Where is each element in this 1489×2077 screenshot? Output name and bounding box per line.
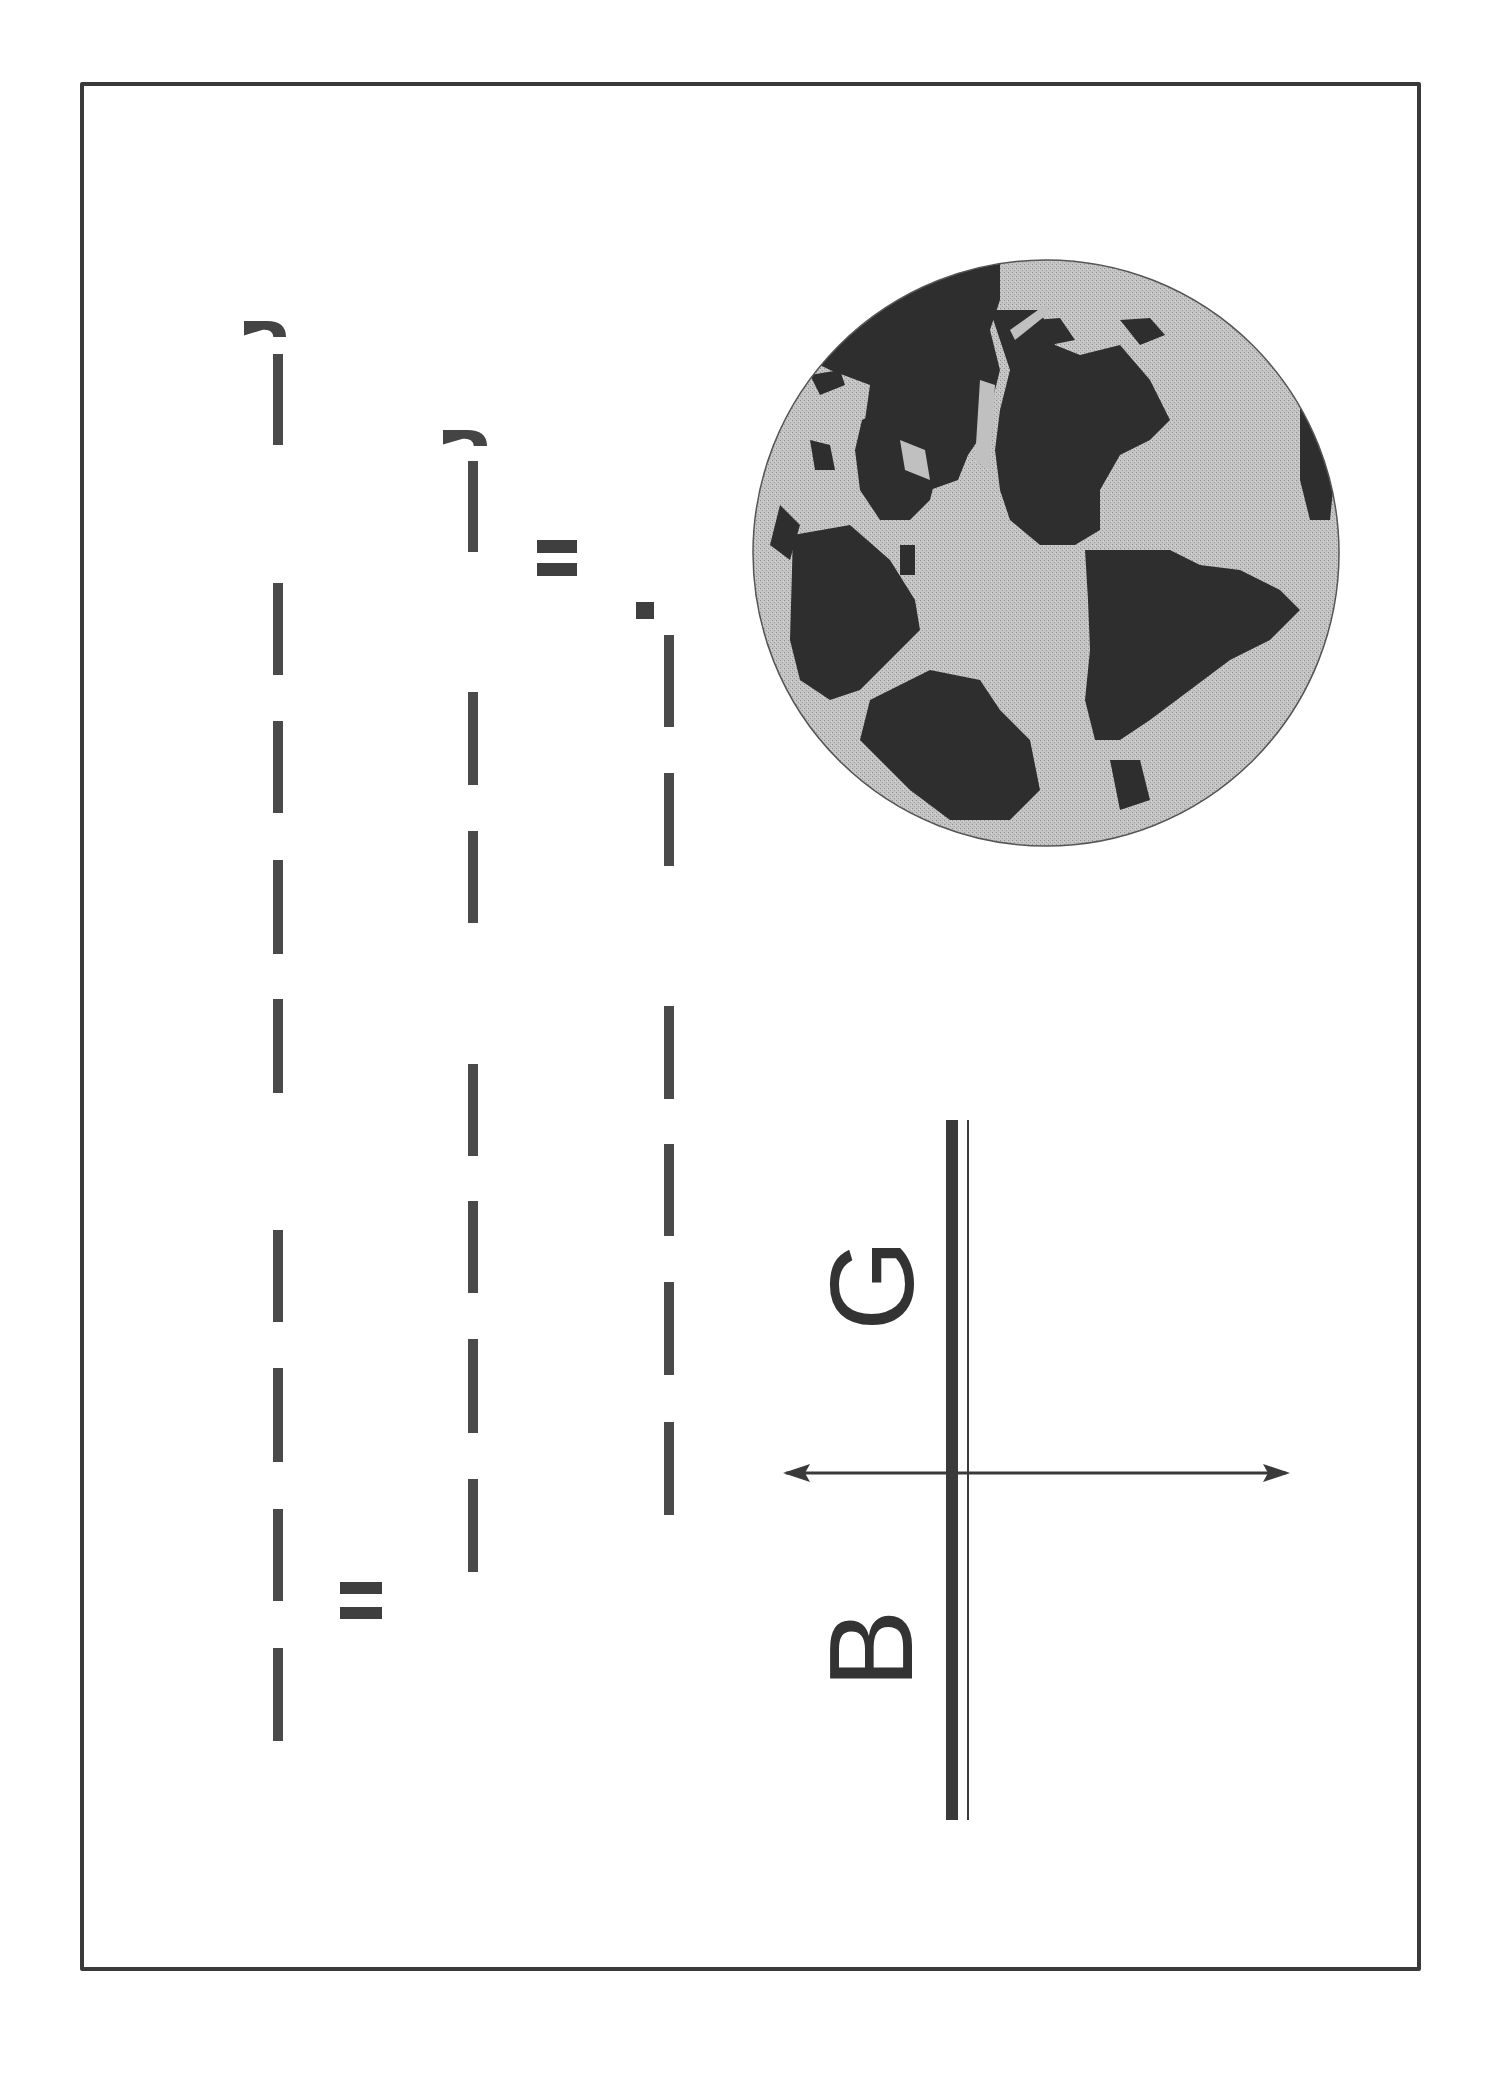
axis-diagram xyxy=(783,1120,1290,1820)
axis-label-g: G xyxy=(813,1239,931,1331)
axis-label-b: B xyxy=(812,1610,930,1689)
world-map-globe xyxy=(0,0,1489,2077)
